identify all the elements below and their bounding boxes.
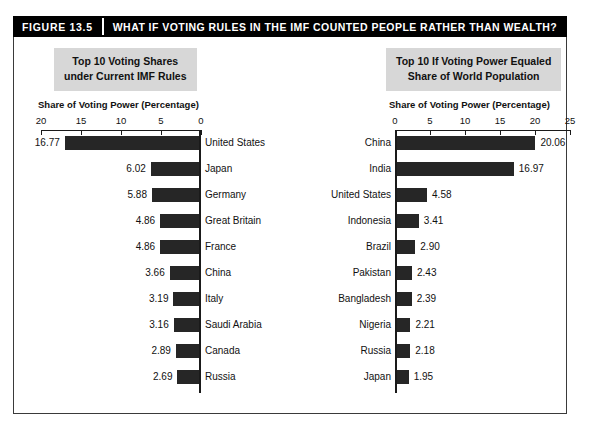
- bar-category-label: Russia: [205, 370, 236, 384]
- bar-value-label: 2.89: [151, 344, 170, 358]
- chart-row: 5.88Germany: [41, 182, 287, 208]
- chart-row: 16.97India: [295, 156, 568, 182]
- bar-value-label: 2.21: [415, 318, 434, 332]
- right-plot-area: 20.06China16.97India4.58United States3.4…: [295, 130, 568, 402]
- chart-row: 1.95Japan: [295, 364, 568, 390]
- right-axis-tick-labels: 0510152025: [395, 115, 570, 127]
- right-panel-heading-line2: Share of World Population: [396, 69, 551, 84]
- axis-tick-label: 25: [565, 115, 576, 126]
- bar-value-label: 2.18: [415, 344, 434, 358]
- bar: [151, 162, 199, 176]
- left-panel-heading-line1: Top 10 Voting Shares: [64, 54, 187, 69]
- figure-number: FIGURE 13.5: [13, 21, 102, 33]
- bar: [174, 318, 199, 332]
- bar-value-label: 4.58: [432, 188, 451, 202]
- bar-category-label: Italy: [205, 292, 223, 306]
- chart-row: 6.02Japan: [41, 156, 287, 182]
- bar: [177, 370, 199, 384]
- bar-category-label: United States: [331, 188, 391, 202]
- right-zero-line: [395, 130, 397, 393]
- bar-category-label: Germany: [205, 188, 246, 202]
- bar: [152, 188, 199, 202]
- chart-row: 4.86France: [41, 234, 287, 260]
- bar-category-label: Brazil: [366, 240, 391, 254]
- chart-row: 2.18Russia: [295, 338, 568, 364]
- bar-category-label: Canada: [205, 344, 240, 358]
- bar: [395, 188, 427, 202]
- bar-category-label: China: [365, 136, 391, 150]
- bar-value-label: 3.16: [149, 318, 168, 332]
- bar: [395, 292, 412, 306]
- bar-value-label: 2.69: [153, 370, 172, 384]
- bar-category-label: Nigeria: [359, 318, 391, 332]
- bar: [395, 370, 409, 384]
- bar-value-label: 6.02: [126, 162, 145, 176]
- chart-row: 2.69Russia: [41, 364, 287, 390]
- left-panel-heading: Top 10 Voting Shares under Current IMF R…: [54, 48, 197, 91]
- chart-row: 3.19Italy: [41, 286, 287, 312]
- bar-category-label: United States: [205, 136, 265, 150]
- bar-category-label: Japan: [364, 370, 391, 384]
- chart-row: 2.89Canada: [41, 338, 287, 364]
- bar-category-label: Bangladesh: [338, 292, 391, 306]
- bar-category-label: France: [205, 240, 236, 254]
- bar-value-label: 4.86: [136, 240, 155, 254]
- chart-panel-current-imf-rules: Top 10 Voting Shares under Current IMF R…: [14, 37, 291, 413]
- figure-container: FIGURE 13.5 WHAT IF VOTING RULES IN THE …: [13, 16, 567, 414]
- axis-tick-label: 0: [198, 115, 203, 126]
- bar-value-label: 3.41: [424, 214, 443, 228]
- chart-panel-population-share: Top 10 If Voting Power Equaled Share of …: [291, 37, 568, 413]
- axis-tick-label: 0: [392, 115, 397, 126]
- bar: [160, 214, 199, 228]
- bar-value-label: 3.66: [145, 266, 164, 280]
- figure-body: Top 10 Voting Shares under Current IMF R…: [13, 37, 567, 414]
- bar-value-label: 16.77: [35, 136, 60, 150]
- axis-tick-label: 5: [427, 115, 432, 126]
- bar: [170, 266, 199, 280]
- axis-tick-label: 15: [495, 115, 506, 126]
- chart-row: 4.58United States: [295, 182, 568, 208]
- bar-category-label: Japan: [205, 162, 232, 176]
- bar: [395, 318, 410, 332]
- axis-tick-label: 10: [460, 115, 471, 126]
- chart-row: 2.90Brazil: [295, 234, 568, 260]
- chart-row: 20.06China: [295, 130, 568, 156]
- axis-tick-label: 20: [530, 115, 541, 126]
- bar-value-label: 20.06: [540, 136, 565, 150]
- axis-tick-label: 15: [76, 115, 87, 126]
- bar: [395, 162, 514, 176]
- chart-row: 3.16Saudi Arabia: [41, 312, 287, 338]
- bar-category-label: China: [205, 266, 231, 280]
- chart-row: 2.21Nigeria: [295, 312, 568, 338]
- bar-value-label: 16.97: [519, 162, 544, 176]
- left-plot-area: 16.77United States6.02Japan5.88Germany4.…: [41, 130, 287, 402]
- bar-value-label: 1.95: [414, 370, 433, 384]
- bar: [395, 344, 410, 358]
- left-panel-heading-line2: under Current IMF Rules: [64, 69, 187, 84]
- bar-value-label: 5.88: [127, 188, 146, 202]
- left-axis-tick-labels: 20151050: [41, 115, 201, 127]
- bar-category-label: Indonesia: [348, 214, 391, 228]
- bar-value-label: 4.86: [136, 214, 155, 228]
- chart-row: 16.77United States: [41, 130, 287, 156]
- axis-tick-label: 5: [158, 115, 163, 126]
- bar-value-label: 2.43: [417, 266, 436, 280]
- bar: [395, 214, 419, 228]
- bar-value-label: 2.90: [420, 240, 439, 254]
- chart-row: 4.86Great Britain: [41, 208, 287, 234]
- page-title: WHAT IF VOTING RULES IN THE IMF COUNTED …: [104, 21, 557, 33]
- bar: [395, 266, 412, 280]
- chart-row: 3.41Indonesia: [295, 208, 568, 234]
- chart-row: 3.66China: [41, 260, 287, 286]
- bar-category-label: Saudi Arabia: [205, 318, 262, 332]
- bar: [395, 136, 535, 150]
- bar-category-label: India: [369, 162, 391, 176]
- bar: [173, 292, 199, 306]
- bar-category-label: Russia: [360, 344, 391, 358]
- bar-value-label: 3.19: [149, 292, 168, 306]
- right-panel-heading: Top 10 If Voting Power Equaled Share of …: [386, 48, 561, 91]
- axis-tick-label: 20: [36, 115, 47, 126]
- right-panel-heading-line1: Top 10 If Voting Power Equaled: [396, 54, 551, 69]
- left-axis-caption: Share of Voting Power (Percentage): [38, 99, 199, 110]
- axis-tick-label: 10: [116, 115, 127, 126]
